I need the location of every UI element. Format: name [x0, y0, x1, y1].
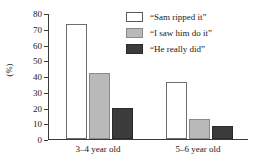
legend-swatch-icon: [126, 28, 143, 38]
y-tick-mark: [44, 140, 48, 141]
y-axis-tick-labels: 01020304050607080: [16, 14, 42, 140]
y-tick-label: 70: [16, 25, 42, 35]
y-tick-label: 60: [16, 41, 42, 51]
legend-item: “Sam ripped it”: [126, 9, 250, 25]
y-tick-label: 80: [16, 9, 42, 19]
y-tick-label: 50: [16, 56, 42, 66]
x-tick-label: 3–4 year old: [76, 142, 121, 156]
legend-label: “I saw him do it”: [150, 28, 212, 39]
legend-swatch-icon: [126, 44, 143, 54]
legend-item: “He really did”: [126, 41, 250, 57]
y-tick-label: 0: [16, 135, 42, 145]
bar: [66, 24, 87, 139]
y-tick-label: 30: [16, 88, 42, 98]
bar-chart-figure: (%) 01020304050607080 3–4 year old5–6 ye…: [0, 0, 253, 165]
legend-label: “Sam ripped it”: [150, 12, 206, 23]
bar: [166, 82, 187, 139]
y-tick-label: 10: [16, 119, 42, 129]
y-tick-label: 40: [16, 72, 42, 82]
legend-item: “I saw him do it”: [126, 25, 250, 41]
x-tick-label: 5–6 year old: [176, 142, 221, 156]
legend: “Sam ripped it”“I saw him do it”“He real…: [126, 9, 250, 57]
bar: [189, 119, 210, 139]
bar: [112, 108, 133, 140]
bar: [212, 126, 233, 139]
y-axis-label-text: (%): [4, 64, 14, 77]
y-tick-label: 20: [16, 104, 42, 114]
y-axis-label: (%): [2, 0, 16, 140]
legend-label: “He really did”: [150, 44, 205, 55]
legend-swatch-icon: [126, 12, 143, 22]
x-axis-tick-labels: 3–4 year old5–6 year old: [48, 142, 248, 160]
bar: [89, 73, 110, 139]
